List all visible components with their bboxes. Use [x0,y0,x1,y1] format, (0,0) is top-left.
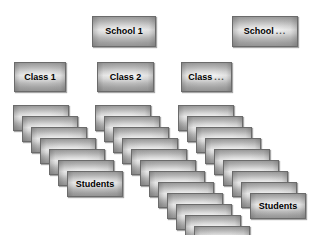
student-card-front[interactable]: Students [194,226,250,235]
school-node-school-1[interactable]: School 1 [92,16,156,47]
students-label: Students [68,180,122,189]
school-node-label: School... [233,27,297,36]
ellipsis-text: ... [274,26,287,36]
ellipsis-text: ... [212,72,225,82]
class-node-class-1[interactable]: Class 1 [14,62,66,92]
student-card-front[interactable]: Students [250,193,306,219]
diagram-canvas: School 1School... Class 1Class 2Class...… [0,0,311,235]
class-node-label: Class... [182,73,231,82]
students-label: Students [195,235,249,236]
student-card-front[interactable]: Students [67,171,123,197]
class-node-label: Class 2 [98,73,153,82]
school-node-school-n[interactable]: School... [232,16,298,47]
class-node-class-n[interactable]: Class... [181,62,232,92]
class-node-class-2[interactable]: Class 2 [97,62,154,92]
class-node-label: Class 1 [15,73,65,82]
students-label: Students [251,202,305,211]
school-node-label: School 1 [93,27,155,36]
